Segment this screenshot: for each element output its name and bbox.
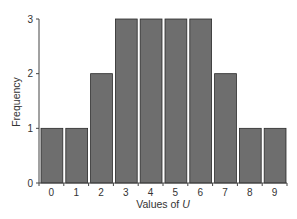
x-tick-label-1: 1 [73, 187, 79, 198]
x-tick-label-6: 6 [197, 187, 203, 198]
x-tick-label-4: 4 [148, 187, 154, 198]
bar-9 [264, 128, 286, 183]
x-tick-label-8: 8 [247, 187, 253, 198]
bars-group [41, 19, 286, 183]
y-tick-label-1: 1 [27, 123, 33, 134]
bar-6 [190, 19, 212, 183]
y-tick-label-0: 0 [27, 178, 33, 189]
x-tick-label-3: 3 [123, 187, 129, 198]
bar-2 [91, 74, 113, 183]
bar-4 [140, 19, 162, 183]
x-tick-label-5: 5 [173, 187, 179, 198]
bar-7 [215, 74, 237, 183]
bar-0 [41, 128, 63, 183]
x-tick-label-2: 2 [98, 187, 104, 198]
x-tick-label-7: 7 [222, 187, 228, 198]
bar-1 [66, 128, 88, 183]
y-tick-label-3: 3 [27, 14, 33, 25]
y-tick-label-2: 2 [27, 68, 33, 79]
x-axis-label-text: Values of [136, 198, 182, 210]
x-axis-label: Values of U [136, 198, 190, 210]
bar-8 [239, 128, 261, 183]
x-tick-labels: 0123456789 [49, 187, 278, 198]
y-axis-label: Frequency [10, 76, 22, 126]
bar-3 [115, 19, 137, 183]
bar-5 [165, 19, 187, 183]
x-axis-label-variable: U [182, 198, 190, 210]
x-tick-label-0: 0 [49, 187, 55, 198]
y-tick-labels: 0123 [27, 14, 33, 189]
frequency-bar-chart: 0123456789 0123 Frequency Values of U [0, 0, 297, 219]
x-tick-label-9: 9 [272, 187, 278, 198]
